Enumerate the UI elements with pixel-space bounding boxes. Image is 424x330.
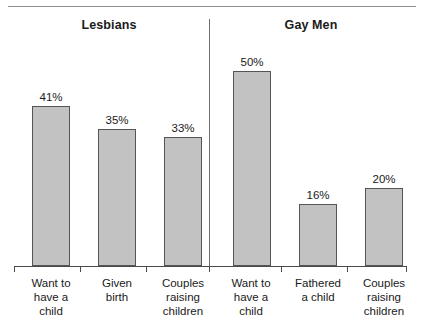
x-axis-tick-1	[80, 267, 81, 272]
bar-6	[365, 188, 403, 266]
plot-area: 41% 35% 33% 50% 16% 20%	[0, 0, 424, 266]
category-label-3: Couples raising children	[148, 276, 218, 318]
x-axis-tick-0	[14, 267, 15, 272]
bar-2	[98, 129, 136, 266]
bar-3	[164, 137, 202, 266]
x-axis-tick-2	[146, 267, 147, 272]
x-axis-tick-3	[209, 267, 210, 272]
bar-value-label-1: 41%	[21, 91, 81, 103]
bar-chart-figure: Lesbians Gay Men 41% 35% 33% 50% 16% 20%…	[0, 0, 424, 330]
category-label-1: Want to have a child	[16, 276, 86, 318]
bar-value-label-5: 16%	[288, 189, 348, 201]
bar-value-label-2: 35%	[87, 114, 147, 126]
bar-value-label-6: 20%	[354, 173, 414, 185]
category-label-4: Want to have a child	[216, 276, 286, 318]
bar-1	[32, 106, 70, 266]
x-axis-tick-6	[406, 267, 407, 272]
bar-5	[299, 204, 337, 266]
bar-value-label-3: 33%	[153, 122, 213, 134]
category-label-5: Fathered a child	[282, 276, 354, 304]
bar-value-label-4: 50%	[222, 56, 282, 68]
x-axis-line	[14, 266, 407, 267]
bar-4	[233, 71, 271, 266]
category-label-2: Given birth	[82, 276, 152, 304]
x-axis-tick-5	[347, 267, 348, 272]
category-label-6: Couples raising children	[349, 276, 419, 318]
x-axis-tick-4	[281, 267, 282, 272]
